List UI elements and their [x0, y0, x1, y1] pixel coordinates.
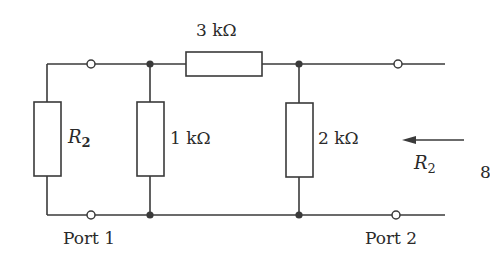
junction-dot: [295, 60, 302, 67]
circuit-diagram: 3 kΩ R2 1 kΩ 2 kΩ R2 8 Port 1 Port 2: [0, 0, 490, 266]
port1-terminal-top: [87, 60, 95, 68]
label-r2-arrow: R2: [414, 152, 436, 173]
label-r2-left: R2: [68, 126, 91, 147]
r3k-resistor: [186, 52, 262, 76]
port2-terminal-top: [394, 60, 402, 68]
label-2k: 2 kΩ: [318, 128, 359, 148]
arrow-left-icon: [402, 136, 416, 144]
label-port2: Port 2: [365, 228, 417, 248]
label-1k: 1 kΩ: [170, 128, 211, 148]
port2-terminal-bottom: [392, 211, 400, 219]
port1-terminal-bottom: [87, 211, 95, 219]
page-mark: 8: [480, 162, 490, 182]
r1k-resistor: [137, 102, 164, 176]
r2k-resistor: [286, 103, 313, 177]
junction-dot: [295, 211, 302, 218]
label-3k: 3 kΩ: [196, 20, 237, 40]
junction-dot: [146, 60, 153, 67]
r2-resistor: [34, 102, 61, 176]
junction-dot: [146, 211, 153, 218]
label-port1: Port 1: [63, 228, 115, 248]
